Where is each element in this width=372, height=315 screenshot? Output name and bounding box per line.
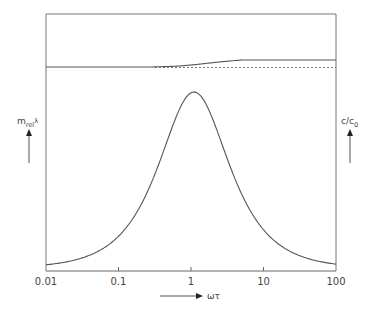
top-panel (46, 60, 336, 68)
x-axis-label-text: ωτ (207, 291, 220, 301)
x-tick-label: 0.01 (35, 276, 57, 287)
absorption-peak-curve (46, 92, 336, 265)
dispersion-curve (46, 60, 336, 67)
bottom-panel (46, 92, 336, 265)
x-tick-label: 10 (257, 276, 270, 287)
x-tick-label: 1 (188, 276, 194, 287)
relaxation-chart: 0.010.1110100 mrelλ c/c0 ωτ (0, 0, 372, 315)
x-tick-label: 100 (326, 276, 345, 287)
x-axis-ticks: 0.010.1110100 (35, 267, 346, 287)
x-tick-label: 0.1 (111, 276, 127, 287)
x-arrowhead-icon (196, 293, 203, 299)
left-axis-label: mrelλ (17, 116, 38, 163)
left-arrowhead-icon (26, 129, 32, 136)
plot-frame (46, 14, 336, 271)
right-axis-label-text: c/c0 (341, 116, 358, 129)
left-axis-label-text: mrelλ (17, 116, 38, 129)
right-arrowhead-icon (347, 129, 353, 136)
right-axis-label: c/c0 (341, 116, 358, 163)
x-axis-label: ωτ (160, 291, 220, 301)
